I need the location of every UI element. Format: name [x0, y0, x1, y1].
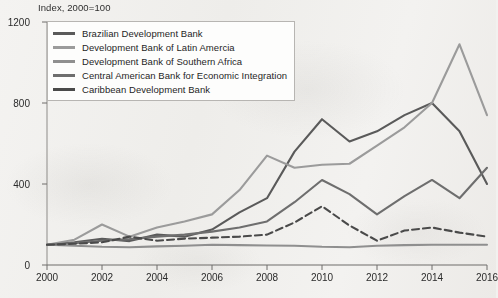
legend-item-label: Development Bank of Southern Africa	[82, 56, 242, 67]
legend-item[interactable]: Caribbean Development Bank	[53, 82, 287, 96]
legend-item[interactable]: Development Bank of Latin Amercia	[53, 40, 287, 54]
legend-item-label: Central American Bank for Economic Integ…	[82, 70, 287, 81]
legend-item-label: Development Bank of Latin Amercia	[82, 42, 235, 53]
legend-line-swatch	[53, 46, 75, 49]
chart-legend: Brazilian Development BankDevelopment Ba…	[47, 21, 295, 101]
legend-item-label: Brazilian Development Bank	[82, 28, 203, 39]
legend-line-swatch	[53, 74, 75, 77]
legend-line-swatch	[53, 88, 75, 91]
legend-item-label: Caribbean Development Bank	[82, 84, 210, 95]
series-line-1	[47, 103, 487, 245]
series-line-3	[47, 245, 487, 247]
legend-line-swatch	[53, 60, 75, 63]
legend-item[interactable]: Brazilian Development Bank	[53, 26, 287, 40]
legend-line-swatch	[53, 32, 75, 35]
series-line-4	[47, 168, 487, 245]
legend-item[interactable]: Central American Bank for Economic Integ…	[53, 68, 287, 82]
legend-item[interactable]: Development Bank of Southern Africa	[53, 54, 287, 68]
